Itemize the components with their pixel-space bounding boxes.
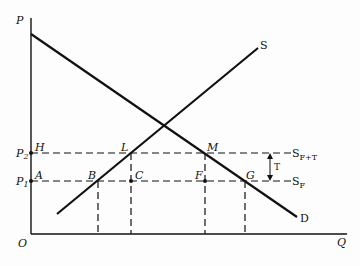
y-axis-label: P: [15, 14, 24, 27]
p1-sub: 1: [23, 180, 28, 189]
svg-text:P2: P2: [15, 147, 29, 161]
svg-text:G: G: [246, 169, 255, 182]
sf-label: S: [292, 175, 300, 188]
svg-text:O: O: [18, 237, 27, 250]
demand-curve: [31, 34, 297, 217]
svg-text:SF: SF: [292, 175, 306, 190]
point-p1: [29, 179, 33, 183]
arrow-down-icon: [267, 175, 273, 181]
sft-label: S: [292, 147, 300, 160]
label-b: B: [87, 169, 96, 182]
svg-text:D: D: [300, 212, 309, 225]
label-g: G: [246, 169, 255, 182]
svg-text:P1: P1: [15, 175, 29, 189]
point-p2: [29, 151, 33, 155]
svg-text:H: H: [34, 141, 45, 154]
sf-sub: F: [300, 181, 306, 190]
label-c: C: [135, 169, 144, 182]
x-axis-label: Q: [337, 236, 346, 249]
svg-text:L: L: [120, 141, 128, 154]
label-a: A: [34, 169, 43, 182]
tariff-label: T: [274, 162, 280, 172]
sft-sub: F+T: [300, 153, 318, 162]
svg-text:T: T: [274, 162, 280, 172]
supply-label: S: [260, 39, 268, 52]
svg-text:SF+T: SF+T: [292, 147, 318, 162]
svg-text:A: A: [34, 169, 43, 182]
svg-text:F: F: [194, 169, 203, 182]
demand-label: D: [300, 212, 309, 225]
svg-text:B: B: [87, 169, 96, 182]
p2-sub: 2: [22, 152, 28, 161]
svg-text:P: P: [15, 14, 24, 27]
arrow-up-icon: [267, 153, 273, 159]
label-m: M: [206, 141, 219, 154]
point-f: [203, 179, 207, 183]
svg-text:C: C: [135, 169, 144, 182]
svg-text:Q: Q: [337, 236, 346, 249]
origin-label: O: [18, 237, 27, 250]
tariff-diagram: P O Q P2 P1 H L M A B C F G S D SF+T SF …: [0, 0, 360, 266]
svg-text:S: S: [260, 39, 268, 52]
label-h: H: [34, 141, 45, 154]
label-l: L: [120, 141, 128, 154]
svg-text:M: M: [206, 141, 219, 154]
point-c: [129, 179, 133, 183]
label-f: F: [194, 169, 203, 182]
